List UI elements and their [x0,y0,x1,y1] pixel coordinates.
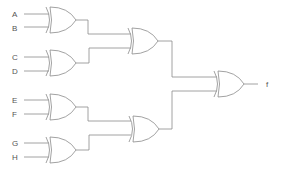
input-label-f: F [12,110,17,119]
xor-gate-final [214,71,244,97]
xor-gate-gh [46,137,76,163]
input-label-g: G [12,139,18,148]
input-label-d: D [12,67,18,76]
logic-circuit-diagram: A B C D E F G H f [0,0,283,177]
intermediate-wires [76,20,131,150]
final-input-wires [158,41,217,129]
xor-gate-ab [46,7,76,33]
input-label-h: H [12,153,18,162]
output-label-f: f [266,80,269,89]
xor-gate-cd [46,50,76,76]
xor-gate-efgh [129,116,159,142]
xor-gate-abcd [128,28,158,54]
input-label-e: E [12,96,17,105]
xor-gate-ef [46,94,76,120]
input-label-b: B [12,24,17,33]
input-label-c: C [12,53,18,62]
input-wires [24,14,49,157]
input-label-a: A [12,10,18,19]
